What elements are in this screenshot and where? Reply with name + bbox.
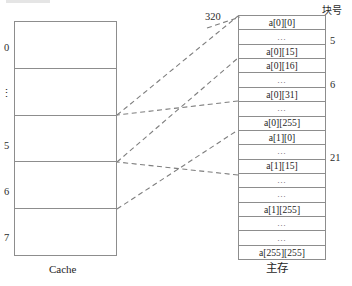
memory-row: a[0][31] <box>239 88 325 102</box>
memory-row: a[1][255] <box>239 203 325 217</box>
memory-row: … <box>239 217 325 231</box>
connector-cache5-to-block5 <box>117 16 238 115</box>
memory-row: a[1][15] <box>239 160 325 174</box>
cache-row <box>15 162 116 209</box>
cache-row-label-ellipsis: ⋮ <box>0 88 13 99</box>
cache-row <box>15 209 116 255</box>
block-number-5: 5 <box>330 35 335 46</box>
memory-row: a[0][0] <box>239 16 325 30</box>
memory-row: … <box>239 73 325 87</box>
cache-row-label-5: 5 <box>0 140 13 151</box>
memory-row: … <box>239 145 325 159</box>
block-number-header: 块号 <box>322 2 342 17</box>
memory-row: … <box>239 231 325 245</box>
memory-row: … <box>239 30 325 44</box>
cache-row <box>15 69 116 116</box>
cache-row-label-0: 0 <box>0 42 13 53</box>
address-label-320: 320 <box>205 11 221 22</box>
cache-table <box>14 21 117 256</box>
memory-row: … <box>239 188 325 202</box>
memory-row: a[0][16] <box>239 59 325 73</box>
main-memory-caption: 主存 <box>266 262 288 274</box>
connector-blockmid-to-cache6 <box>117 162 238 175</box>
cache-row-label-6: 6 <box>0 186 13 197</box>
memory-row: a[0][255] <box>239 117 325 131</box>
memory-row: a[0][15] <box>239 45 325 59</box>
block-number-21: 21 <box>330 152 341 163</box>
memory-row: a[255][255] <box>239 246 325 259</box>
cache-row <box>15 22 116 69</box>
memory-row: a[1][0] <box>239 131 325 145</box>
cache-caption: Cache <box>49 263 76 275</box>
connector-cache7-to-block21 <box>117 130 238 209</box>
cache-row-label-7: 7 <box>0 232 13 243</box>
diagram-canvas: 0 ⋮ 5 6 7 Cache 320 a[0][0] … a[0][15] a… <box>0 0 352 286</box>
scan-artifact <box>6 0 50 3</box>
main-memory-table: a[0][0] … a[0][15] a[0][16] … a[0][31] …… <box>238 15 326 260</box>
memory-row: … <box>239 102 325 116</box>
cache-row <box>15 116 116 163</box>
block-number-6: 6 <box>330 79 335 90</box>
memory-row: … <box>239 174 325 188</box>
connector-block5-to-cache5 <box>117 101 238 115</box>
connector-cache6-to-block6 <box>117 58 238 162</box>
